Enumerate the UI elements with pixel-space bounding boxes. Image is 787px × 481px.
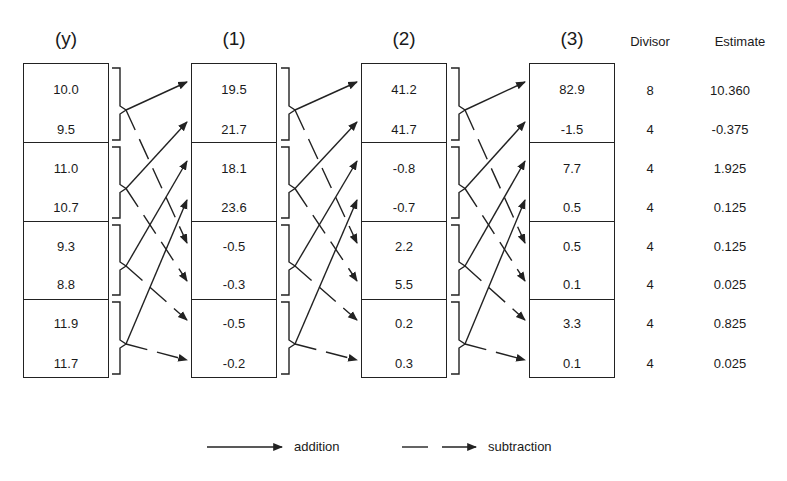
subtraction-arrow [295,189,357,282]
addition-arrow [295,122,357,189]
pair-bracket [451,147,465,218]
pair-bracket [281,302,295,374]
addition-arrow [295,82,357,110]
pair-bracket [112,225,126,295]
pair-bracket [451,302,465,374]
addition-arrow [465,82,525,110]
addition-arrow [126,200,187,344]
pair-bracket [112,68,126,140]
yates-algorithm-diagram: (y) (1) (2) (3) Divisor Estimate 10.0 9.… [0,0,787,481]
pair-bracket [112,147,126,218]
addition-arrow [465,122,525,189]
addition-arrow [295,200,357,344]
subtraction-arrow [126,344,187,360]
subtraction-arrow [126,189,187,282]
subtraction-arrow [465,189,525,282]
legend-subtraction-label: subtraction [488,439,552,454]
pair-bracket [281,147,295,218]
subtraction-arrow [465,266,525,320]
addition-arrow [465,200,525,344]
connector-layer [0,0,787,481]
addition-arrow [126,82,187,110]
pair-bracket [281,68,295,140]
subtraction-arrow [465,344,525,360]
addition-arrow [126,122,187,189]
pair-bracket [281,225,295,295]
subtraction-arrow [295,344,357,360]
subtraction-arrow [126,266,187,320]
legend-addition-label: addition [294,439,340,454]
subtraction-arrow [295,266,357,320]
pair-bracket [451,225,465,295]
pair-bracket [451,68,465,140]
pair-bracket [112,302,126,374]
